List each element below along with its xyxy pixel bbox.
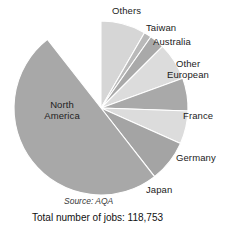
pie-label-japan: Japan [146,184,172,195]
pie-label-france: France [183,110,213,121]
pie-label-other-european-line1: Other [176,58,200,69]
pie-label-other-european-line2: European [167,69,209,80]
pie-chart-figure: Others Taiwan Australia Other European F… [0,0,238,231]
total-jobs-note: Total number of jobs: 118,753 [32,212,163,223]
pie-label-others: Others [112,5,141,16]
pie-label-australia: Australia [153,36,191,47]
pie-label-north-america-line2: America [33,110,91,121]
pie-label-taiwan: Taiwan [146,22,176,33]
source-note: Source: AQA [64,196,113,206]
pie-label-germany: Germany [176,152,216,163]
pie-label-north-america-line1: North [33,99,91,110]
